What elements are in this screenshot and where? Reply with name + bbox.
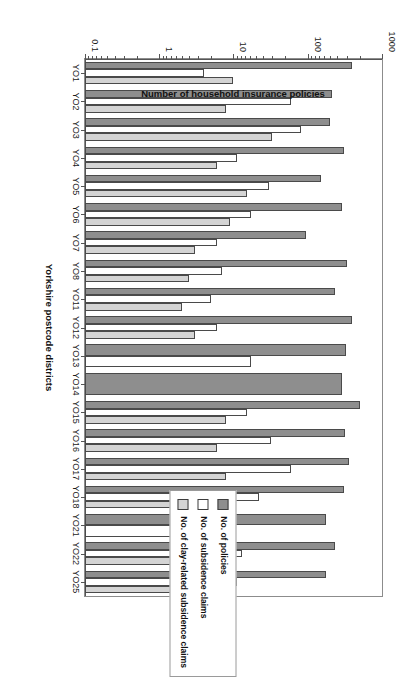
bar-clay	[85, 218, 230, 226]
bar-group	[85, 429, 382, 452]
category-tick	[81, 356, 85, 357]
category-tick	[81, 73, 85, 74]
category-tick	[81, 271, 85, 272]
bar-clay	[85, 162, 217, 170]
bar-policies	[85, 62, 352, 70]
value-minor-tick	[263, 56, 264, 59]
bar-group	[85, 316, 382, 339]
category-label: YO13	[71, 344, 81, 367]
category-tick	[81, 441, 85, 442]
bar-clay	[85, 190, 247, 198]
bar-policies	[85, 231, 306, 239]
bar-claims	[85, 437, 271, 445]
value-minor-tick	[124, 56, 125, 59]
value-minor-tick	[176, 56, 177, 59]
value-minor-tick	[256, 56, 257, 59]
bar-claims	[85, 267, 222, 275]
chart-legend: No. of policiesNo. of subsidence claimsN…	[170, 490, 237, 677]
bar-policies	[85, 147, 344, 155]
value-minor-tick	[92, 56, 93, 59]
value-tick-label: 100	[313, 37, 323, 52]
value-minor-tick	[272, 56, 273, 59]
value-minor-tick	[88, 56, 89, 59]
category-tick	[81, 243, 85, 244]
bar-clay	[85, 331, 195, 339]
value-minor-tick	[330, 56, 331, 59]
value-tick	[308, 54, 309, 59]
bar-claims	[85, 295, 211, 303]
legend-label: No. of policies	[219, 516, 229, 574]
category-label: YO6	[71, 205, 81, 223]
value-minor-tick	[250, 56, 251, 59]
category-tick	[81, 412, 85, 413]
bar-claims	[85, 356, 251, 367]
bar-group	[85, 62, 382, 85]
category-label: YO15	[71, 401, 81, 424]
bar-group	[85, 118, 382, 141]
bar-policies	[85, 203, 342, 211]
legend-swatch-policies	[218, 499, 229, 510]
category-tick	[81, 554, 85, 555]
bar-clay	[85, 473, 226, 481]
category-tick	[81, 299, 85, 300]
value-minor-tick	[115, 56, 116, 59]
category-label: YO7	[71, 234, 81, 252]
category-tick	[81, 582, 85, 583]
bar-group	[85, 203, 382, 226]
bar-clay	[85, 246, 195, 254]
bar-group	[85, 344, 382, 367]
value-minor-tick	[360, 56, 361, 59]
value-minor-tick	[189, 56, 190, 59]
category-tick	[81, 186, 85, 187]
category-tick	[81, 525, 85, 526]
rotated-chart-stage: 10001001010.1 YO1YO2YO3YO4YO5YO6YO7YO8YO…	[10, 10, 397, 683]
bar-claims	[85, 182, 269, 190]
bar-clay	[85, 105, 226, 113]
legend-swatch-claims	[198, 499, 209, 510]
bar-policies	[85, 429, 345, 437]
category-tick	[81, 384, 85, 385]
bar-group	[85, 260, 382, 283]
bar-policies	[85, 260, 347, 268]
bar-group	[85, 288, 382, 311]
category-label: YO5	[71, 177, 81, 195]
bar-clay	[85, 275, 189, 283]
legend-label: No. of clay-related subsidence claims	[179, 516, 189, 668]
value-minor-tick	[237, 56, 238, 59]
chart-canvas: 10001001010.1 YO1YO2YO3YO4YO5YO6YO7YO8YO…	[10, 10, 397, 683]
bar-group	[85, 147, 382, 170]
category-label: YO11	[71, 288, 81, 310]
bar-policies	[85, 458, 349, 466]
bar-policies	[85, 344, 346, 355]
value-tick-label: 0.1	[90, 39, 100, 52]
bar-claims	[85, 98, 291, 106]
value-tick	[234, 54, 235, 59]
bar-claims	[85, 465, 291, 473]
bar-claims	[85, 154, 237, 162]
value-tick	[159, 54, 160, 59]
category-label: YO22	[71, 542, 81, 565]
category-label: YO25	[71, 570, 81, 593]
category-tick	[81, 328, 85, 329]
bar-claims	[85, 409, 247, 417]
value-minor-tick	[324, 56, 325, 59]
category-label: YO1	[71, 64, 81, 82]
category-tick	[81, 101, 85, 102]
value-minor-tick	[137, 56, 138, 59]
value-minor-tick	[198, 56, 199, 59]
value-tick	[85, 54, 86, 59]
legend-swatch-clay	[178, 499, 189, 510]
value-minor-tick	[285, 56, 286, 59]
category-label: YO17	[71, 457, 81, 480]
value-minor-tick	[97, 56, 98, 59]
value-tick-label: 10	[239, 42, 249, 52]
bar-clay	[85, 303, 182, 311]
bar-policies	[85, 316, 352, 324]
value-minor-tick	[211, 56, 212, 59]
bar-group	[85, 401, 382, 424]
value-minor-tick	[171, 56, 172, 59]
bar-clay	[85, 416, 226, 424]
legend-item: No. of policies	[218, 499, 229, 668]
value-minor-tick	[182, 56, 183, 59]
category-tick	[81, 469, 85, 470]
